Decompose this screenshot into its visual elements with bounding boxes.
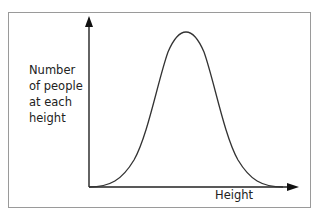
y-axis-arrow-icon	[85, 16, 93, 27]
y-axis-label: Number of people at each height	[29, 62, 89, 126]
y-axis-label-line: height	[29, 110, 89, 126]
y-axis-label-line: at each	[29, 94, 89, 110]
x-axis-label: Height	[215, 188, 253, 202]
bell-curve	[89, 32, 283, 187]
y-axis-label-line: Number	[29, 62, 89, 78]
x-axis-arrow-icon	[287, 183, 299, 191]
y-axis-label-line: of people	[29, 78, 89, 94]
